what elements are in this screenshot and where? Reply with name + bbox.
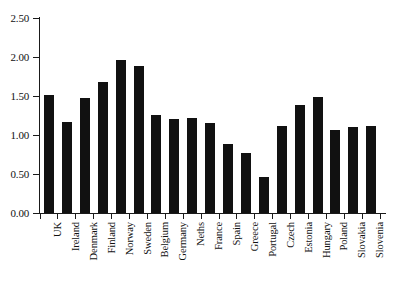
x-axis-tick-label: UK bbox=[53, 222, 64, 237]
bar bbox=[80, 98, 90, 213]
x-axis-tick bbox=[147, 214, 148, 219]
x-axis-tick-label: Finland bbox=[107, 222, 118, 253]
x-axis-tick bbox=[326, 214, 327, 219]
bar-chart: 0.000.501.001.502.002.50 UKIrelandDenmar… bbox=[0, 0, 397, 282]
bar bbox=[134, 66, 144, 213]
x-axis-tick-label: Germany bbox=[178, 222, 189, 260]
bar bbox=[62, 122, 72, 213]
x-axis-tick bbox=[219, 214, 220, 219]
x-axis-tick-label: Slovenia bbox=[375, 222, 386, 258]
x-axis-tick bbox=[308, 214, 309, 219]
x-axis-tick bbox=[290, 214, 291, 219]
x-axis-tick bbox=[165, 214, 166, 219]
y-axis-tick-label: 1.00 bbox=[0, 130, 29, 141]
y-axis-tick-label: 0.50 bbox=[0, 169, 29, 180]
bar bbox=[151, 115, 161, 213]
x-axis-tick bbox=[201, 214, 202, 219]
x-axis-tick bbox=[236, 214, 237, 219]
x-axis-tick-label: France bbox=[214, 222, 225, 250]
x-axis-tick-label: Slovakia bbox=[357, 222, 368, 258]
bar bbox=[98, 82, 108, 213]
x-axis-tick bbox=[40, 214, 41, 219]
x-axis-tick bbox=[344, 214, 345, 219]
x-axis-tick-label: Norway bbox=[125, 222, 136, 255]
x-axis-tick bbox=[183, 214, 184, 219]
x-axis-tick-label: Spain bbox=[232, 222, 243, 245]
x-axis-tick-label: Poland bbox=[339, 222, 350, 251]
x-axis-tick-label: Ireland bbox=[71, 222, 82, 251]
y-axis-tick bbox=[33, 135, 39, 136]
bar bbox=[313, 97, 323, 213]
x-axis-tick bbox=[93, 214, 94, 219]
x-axis-tick bbox=[129, 214, 130, 219]
bar bbox=[366, 126, 376, 213]
y-axis-line bbox=[39, 17, 40, 214]
bar bbox=[295, 105, 305, 213]
x-axis-tick bbox=[57, 214, 58, 219]
x-axis-tick bbox=[254, 214, 255, 219]
bar bbox=[44, 95, 54, 213]
bar bbox=[205, 123, 215, 213]
x-axis-tick bbox=[380, 214, 381, 219]
x-axis-tick-label: Denmark bbox=[89, 222, 100, 260]
y-axis-tick bbox=[33, 213, 39, 214]
x-axis-tick-label: Belgium bbox=[160, 222, 171, 257]
x-axis-tick bbox=[75, 214, 76, 219]
bar bbox=[116, 60, 126, 213]
y-axis-tick-label: 2.00 bbox=[0, 52, 29, 63]
x-axis-tick-label: Estonia bbox=[304, 222, 315, 253]
bar bbox=[330, 130, 340, 213]
x-axis-tick-label: Sweden bbox=[143, 222, 154, 255]
x-axis-line bbox=[39, 213, 386, 214]
bar bbox=[241, 153, 251, 213]
bar bbox=[223, 144, 233, 213]
bar bbox=[348, 127, 358, 213]
bar bbox=[259, 177, 269, 213]
x-axis-tick-label: Neths bbox=[196, 222, 207, 246]
x-axis-tick bbox=[272, 214, 273, 219]
x-axis-tick bbox=[362, 214, 363, 219]
y-axis-tick bbox=[33, 174, 39, 175]
x-axis-tick-label: Czech bbox=[286, 222, 297, 248]
y-axis-tick-label: 2.50 bbox=[0, 13, 29, 24]
y-axis-tick-label: 0.00 bbox=[0, 208, 29, 219]
x-axis-tick-label: Hungary bbox=[322, 222, 333, 258]
x-axis-tick-label: Greece bbox=[250, 222, 261, 251]
y-axis-tick bbox=[33, 96, 39, 97]
y-axis-tick bbox=[33, 18, 39, 19]
y-axis-tick-label: 1.50 bbox=[0, 91, 29, 102]
bar bbox=[187, 118, 197, 213]
bar bbox=[277, 126, 287, 213]
bar bbox=[169, 119, 179, 213]
x-axis-tick bbox=[111, 214, 112, 219]
x-axis-tick-label: Portugal bbox=[268, 222, 279, 257]
y-axis-tick bbox=[33, 57, 39, 58]
